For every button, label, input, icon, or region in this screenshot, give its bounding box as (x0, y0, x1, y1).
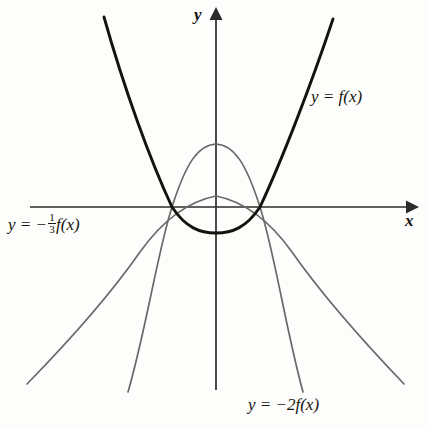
one-third-fraction: 1 3 (48, 212, 56, 236)
y-axis-arrowhead-icon (210, 7, 223, 20)
fraction-denominator: 3 (48, 224, 56, 235)
y-axis-label: y (194, 6, 202, 23)
curve-label-neg-one-third-suffix: f(x) (56, 216, 80, 233)
parabola-transformations-figure: y x y = f(x) y = −2f(x) y = − 1 3 f(x) (0, 0, 428, 428)
fraction-numerator: 1 (48, 212, 56, 223)
curve-label-neg-two-f: y = −2f(x) (248, 396, 319, 413)
curve-label-neg-one-third-f: y = − 1 3 f(x) (8, 213, 80, 237)
curve-label-base-f: y = f(x) (311, 88, 362, 105)
y-axis (210, 7, 223, 390)
x-axis-label: x (405, 212, 414, 229)
curve-label-neg-one-third-prefix: y = − (8, 216, 47, 233)
x-axis (30, 201, 419, 214)
curve-base-f (104, 17, 333, 233)
